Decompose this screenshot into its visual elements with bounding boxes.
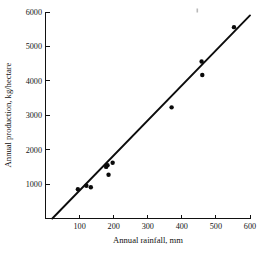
scatter-plot: 1000 2000 3000 4000 5000 6000 100 200 30… — [0, 0, 265, 255]
data-point — [76, 187, 80, 191]
x-tick-label-300: 300 — [142, 222, 154, 231]
page-speck — [197, 9, 199, 13]
x-axis-ticks — [80, 215, 250, 219]
data-point — [106, 173, 110, 177]
x-axis-title: Annual rainfall, mm — [113, 235, 183, 245]
data-point — [232, 25, 236, 29]
data-point — [84, 184, 88, 188]
y-tick-label-2000: 2000 — [26, 146, 42, 155]
y-axis-ticks — [46, 12, 50, 184]
x-axis-tick-labels: 100 200 300 400 500 600 — [73, 222, 256, 231]
y-tick-label-6000: 6000 — [26, 8, 42, 17]
data-point — [199, 59, 203, 63]
x-tick-label-600: 600 — [244, 222, 256, 231]
y-axis-title: Annual production, kg/hectare — [3, 62, 13, 167]
x-tick-label-400: 400 — [176, 222, 188, 231]
x-tick-label-100: 100 — [73, 222, 85, 231]
data-point — [169, 105, 173, 109]
data-point — [89, 185, 93, 189]
regression-line — [52, 15, 250, 218]
x-tick-label-500: 500 — [210, 222, 222, 231]
y-tick-label-1000: 1000 — [26, 180, 42, 189]
y-tick-label-4000: 4000 — [26, 77, 42, 86]
chart-figure: 1000 2000 3000 4000 5000 6000 100 200 30… — [0, 0, 265, 255]
y-tick-label-3000: 3000 — [26, 111, 42, 120]
axis-frame — [46, 12, 251, 219]
y-tick-label-5000: 5000 — [26, 42, 42, 51]
data-point-group — [76, 25, 237, 192]
x-tick-label-200: 200 — [108, 222, 120, 231]
data-point — [200, 73, 204, 77]
data-point — [110, 161, 114, 165]
data-point — [105, 163, 109, 167]
y-axis-tick-labels: 1000 2000 3000 4000 5000 6000 — [26, 8, 42, 189]
